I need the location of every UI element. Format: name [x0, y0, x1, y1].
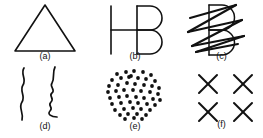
- cluster-dot: [132, 69, 136, 73]
- cluster-dot: [126, 112, 130, 116]
- cluster-dot: [136, 76, 140, 80]
- cluster-dot: [141, 70, 145, 74]
- cluster-dot: [136, 101, 140, 105]
- dot-cluster-shape: [90, 62, 180, 124]
- cluster-dot: [125, 94, 129, 98]
- panel-a-caption: (a): [0, 52, 90, 61]
- cluster-dot: [119, 76, 123, 80]
- panel-f: [180, 62, 263, 124]
- cluster-dot: [128, 100, 132, 104]
- x-mark: [199, 103, 217, 121]
- cluster-dot: [125, 81, 129, 85]
- cluster-dot: [131, 88, 135, 92]
- x-mark: [234, 103, 252, 121]
- left-wavy-contour: [21, 68, 25, 120]
- cluster-dot: [145, 102, 149, 106]
- cluster-dot: [132, 116, 136, 120]
- cluster-dot: [135, 112, 139, 116]
- cluster-dot: [107, 84, 111, 88]
- cluster-dot: [144, 113, 148, 117]
- scribble-strokes: [188, 5, 244, 52]
- right-profile-contour: [49, 67, 57, 117]
- x-grid-shape: [180, 62, 263, 124]
- cluster-dot: [123, 117, 127, 121]
- panel-f-caption: (f): [180, 120, 263, 129]
- cluster-dot: [133, 82, 137, 86]
- cluster-dot: [142, 83, 146, 87]
- cluster-dot: [110, 78, 114, 82]
- panel-b-caption: (b): [90, 52, 180, 61]
- panel-e-caption: (e): [90, 122, 180, 131]
- cluster-dot: [114, 89, 118, 93]
- panel-d: [0, 62, 90, 124]
- cluster-dot: [149, 73, 153, 77]
- cluster-dot: [148, 108, 152, 112]
- cluster-dot: [142, 96, 146, 100]
- x-mark: [234, 75, 252, 93]
- cluster-dot: [139, 89, 143, 93]
- cluster-dot: [117, 95, 121, 99]
- cluster-dot: [118, 113, 122, 117]
- cluster-dot: [122, 88, 126, 92]
- cluster-dot: [134, 95, 138, 99]
- cluster-dot: [157, 86, 161, 90]
- cluster-dot: [122, 107, 126, 111]
- wavy-contours-shape: [0, 62, 90, 124]
- panel-d-caption: (d): [0, 122, 90, 131]
- panel-e: [90, 62, 180, 124]
- cluster-dot: [153, 103, 157, 107]
- cluster-dot: [108, 96, 112, 100]
- cluster-dot: [113, 108, 117, 112]
- cluster-dot: [106, 90, 110, 94]
- cluster-dot: [151, 97, 155, 101]
- cluster-dot: [153, 79, 157, 83]
- cluster-dot: [144, 77, 148, 81]
- cluster-dot: [156, 92, 160, 96]
- cluster-dot: [129, 74, 133, 78]
- x-mark: [199, 75, 217, 93]
- cluster-dot: [158, 98, 162, 102]
- cluster-dot: [115, 72, 119, 76]
- cluster-dot: [131, 106, 135, 110]
- cluster-dot: [139, 107, 143, 111]
- panel-c-caption: (c): [180, 52, 263, 61]
- perception-figure: (a) (b): [0, 0, 263, 138]
- cluster-dot: [150, 84, 154, 88]
- cluster-dot: [116, 83, 120, 87]
- cluster-dot: [110, 102, 114, 106]
- cluster-dot: [119, 101, 123, 105]
- cluster-dot: [148, 90, 152, 94]
- cluster-dot: [124, 70, 128, 74]
